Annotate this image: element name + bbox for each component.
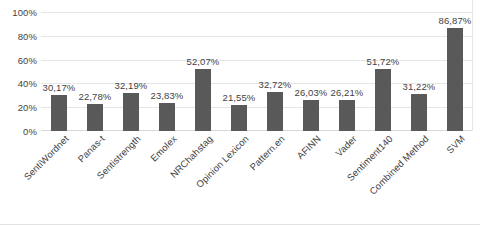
- bar[interactable]: [51, 95, 67, 131]
- bar-slot: 32,72%: [257, 12, 293, 131]
- bar-slot: 86,87%: [437, 12, 473, 131]
- bar[interactable]: [159, 103, 175, 131]
- bar[interactable]: [447, 28, 463, 131]
- bar-value-label: 21,55%: [223, 92, 256, 103]
- x-axis-tick-label: Vader: [333, 133, 359, 159]
- bar-slot: 26,21%: [329, 12, 365, 131]
- bar-value-label: 22,78%: [79, 91, 112, 102]
- y-axis-tick-label: 100%: [12, 7, 37, 18]
- x-axis-tick-label: AFINN: [294, 133, 322, 161]
- y-axis-tick-label: 80%: [18, 30, 37, 41]
- bar-slot: 32,19%: [113, 12, 149, 131]
- bar-value-label: 31,22%: [403, 81, 436, 92]
- x-axis-tick-label: SVM: [444, 133, 467, 156]
- x-axis-tick-label: Emolex: [148, 133, 179, 164]
- bar[interactable]: [267, 92, 283, 131]
- bar-slot: 23,83%: [149, 12, 185, 131]
- y-axis-tick-label: 40%: [18, 78, 37, 89]
- bar-chart: 0%20%40%60%80%100% 30,17%22,78%32,19%23,…: [0, 0, 480, 225]
- bar[interactable]: [375, 69, 391, 131]
- bar-value-label: 86,87%: [439, 15, 472, 26]
- bar-value-label: 26,21%: [331, 87, 364, 98]
- bar-series: 30,17%22,78%32,19%23,83%52,07%21,55%32,7…: [41, 12, 473, 131]
- bar-value-label: 32,19%: [115, 80, 148, 91]
- bar-slot: 51,72%: [365, 12, 401, 131]
- bar-value-label: 32,72%: [259, 79, 292, 90]
- bar[interactable]: [195, 69, 211, 131]
- x-axis-category-labels: SentiWordnetPanas-tSentistrengthEmolexNR…: [41, 133, 473, 225]
- x-axis-tick-label: Panas-t: [75, 133, 106, 164]
- bar-value-label: 30,17%: [43, 82, 76, 93]
- y-axis-tick-label: 20%: [18, 102, 37, 113]
- bar-value-label: 52,07%: [187, 56, 220, 67]
- bar[interactable]: [303, 100, 319, 131]
- bar[interactable]: [411, 94, 427, 131]
- bar[interactable]: [87, 104, 103, 131]
- bar[interactable]: [123, 93, 139, 131]
- bar[interactable]: [339, 100, 355, 131]
- bar-slot: 22,78%: [77, 12, 113, 131]
- y-axis-tick-label: 0%: [23, 126, 37, 137]
- bar-slot: 26,03%: [293, 12, 329, 131]
- bar-value-label: 51,72%: [367, 56, 400, 67]
- plot-area: 30,17%22,78%32,19%23,83%52,07%21,55%32,7…: [41, 12, 473, 131]
- bar[interactable]: [231, 105, 247, 131]
- bar-slot: 52,07%: [185, 12, 221, 131]
- y-axis-tick-label: 60%: [18, 54, 37, 65]
- bar-slot: 31,22%: [401, 12, 437, 131]
- bar-value-label: 23,83%: [151, 90, 184, 101]
- x-axis-tick-label: Pattern.en: [247, 133, 286, 172]
- y-axis: 0%20%40%60%80%100%: [0, 0, 41, 145]
- bar-slot: 30,17%: [41, 12, 77, 131]
- bar-value-label: 26,03%: [295, 87, 328, 98]
- bar-slot: 21,55%: [221, 12, 257, 131]
